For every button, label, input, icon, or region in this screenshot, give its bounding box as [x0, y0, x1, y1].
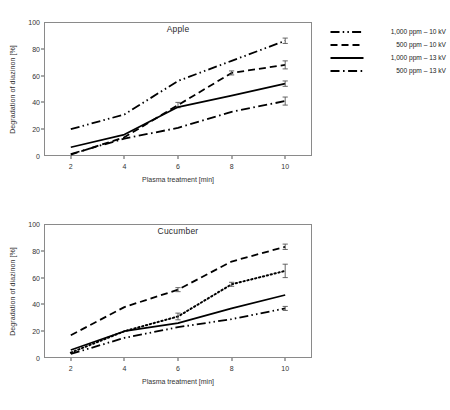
y-tick-label: 60 [32, 72, 40, 79]
y-tick-label: 100 [28, 221, 40, 228]
y-tick-label: 0 [36, 355, 40, 362]
legend-item[interactable]: 1,000 ppm – 13 kV [330, 52, 446, 63]
x-tick-label: 2 [69, 163, 73, 170]
legend-item[interactable]: 1,000 ppm – 10 kV [330, 26, 446, 37]
x-tick-label: 4 [122, 163, 126, 170]
legend-line-swatch [330, 40, 364, 50]
series-line [71, 84, 285, 148]
x-tick-label: 4 [122, 365, 126, 372]
x-axis-cucumber: 246810 [44, 358, 312, 380]
x-tick-label: 6 [176, 365, 180, 372]
y-tick-label: 40 [32, 301, 40, 308]
x-tick-mark [231, 358, 232, 361]
x-tick-mark [231, 156, 232, 159]
chart-panel-cucumber: Degradation of diazinon [%] 020406080100… [0, 202, 450, 407]
x-tick-mark [70, 156, 71, 159]
figure-bottom-divider [0, 404, 450, 405]
x-axis-apple: 246810 [44, 156, 312, 178]
series-line [71, 295, 285, 350]
y-axis-apple: 020406080100 [30, 22, 44, 156]
series-line [71, 271, 285, 353]
y-axis-cucumber: 020406080100 [30, 224, 44, 358]
x-axis-label-cucumber: Plasma treatment [min] [44, 378, 312, 385]
series-layer-apple [44, 22, 312, 156]
legend-line-swatch [330, 53, 364, 63]
plot-area-cucumber: Cucumber [44, 224, 312, 358]
x-tick-label: 2 [69, 365, 73, 372]
x-tick-mark [285, 156, 286, 159]
plot-area-apple: Apple [44, 22, 312, 156]
y-tick-label: 20 [32, 328, 40, 335]
legend-label: 1,000 ppm – 13 kV [368, 54, 446, 61]
y-tick-label: 20 [32, 126, 40, 133]
x-tick-mark [70, 358, 71, 361]
x-tick-label: 10 [281, 365, 289, 372]
legend-label: 500 ppm – 10 kV [368, 41, 446, 48]
series-layer-cucumber [44, 224, 312, 358]
x-tick-mark [124, 358, 125, 361]
x-tick-mark [285, 358, 286, 361]
series-line [71, 41, 285, 129]
legend-item[interactable]: 500 ppm – 13 kV [330, 65, 446, 76]
legend-line-swatch [330, 27, 364, 37]
legend-label: 500 ppm – 13 kV [368, 67, 446, 74]
y-tick-label: 100 [28, 19, 40, 26]
x-tick-label: 6 [176, 163, 180, 170]
y-axis-label-cucumber: Degradation of diazinon [%] [6, 224, 18, 358]
x-axis-label-apple: Plasma treatment [min] [44, 176, 312, 183]
y-axis-label-apple: Degradation of diazinon [%] [6, 22, 18, 156]
x-tick-mark [178, 156, 179, 159]
y-tick-label: 0 [36, 153, 40, 160]
y-tick-label: 80 [32, 45, 40, 52]
error-bar [283, 38, 288, 43]
x-tick-mark [178, 358, 179, 361]
x-tick-label: 8 [230, 365, 234, 372]
x-tick-mark [124, 156, 125, 159]
y-tick-label: 60 [32, 274, 40, 281]
series-line [71, 65, 285, 155]
legend-line-swatch [330, 66, 364, 76]
legend-item[interactable]: 500 ppm – 10 kV [330, 39, 446, 50]
series-line [71, 101, 285, 154]
y-tick-label: 40 [32, 99, 40, 106]
figure-container: Degradation of diazinon [%] 020406080100… [0, 0, 450, 410]
legend-apple: 1,000 ppm – 10 kV500 ppm – 10 kV1,000 pp… [330, 26, 446, 78]
chart-panel-apple: Degradation of diazinon [%] 020406080100… [0, 0, 450, 205]
x-tick-label: 8 [230, 163, 234, 170]
y-tick-label: 80 [32, 247, 40, 254]
legend-label: 1,000 ppm – 10 kV [368, 28, 446, 35]
x-tick-label: 10 [281, 163, 289, 170]
